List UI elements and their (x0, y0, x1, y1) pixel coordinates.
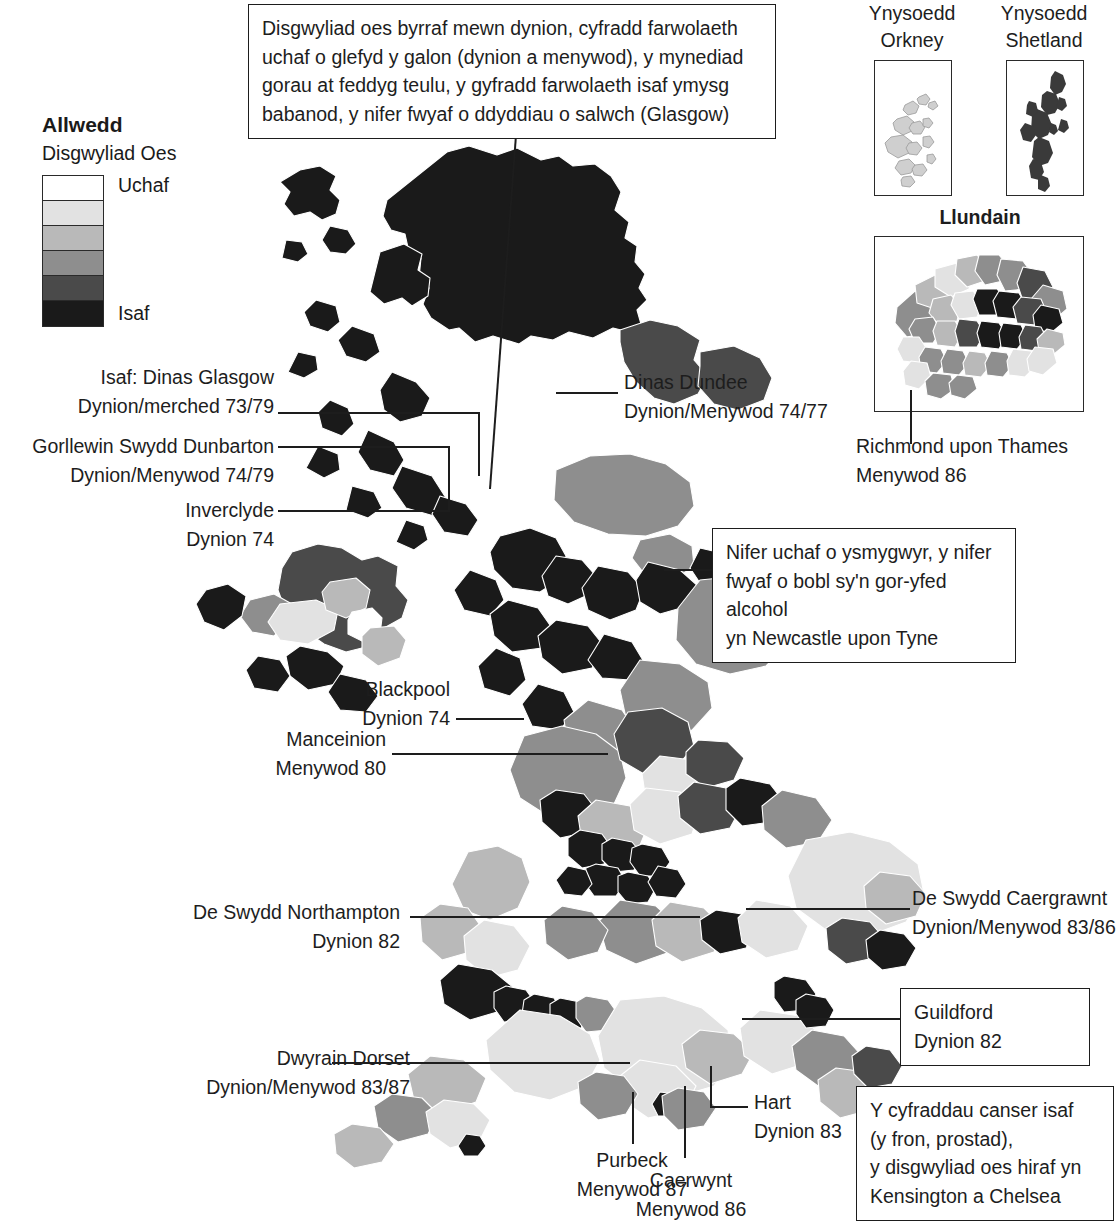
label-glasgow-city-line2: Dynion/merched 73/79 (30, 392, 274, 421)
inset-orkney-line1: Ynysoedd (852, 0, 972, 27)
leader-east-dorset (332, 1062, 630, 1064)
callout-glasgow-line-3: gorau at feddyg teulu, y gyfradd farwola… (262, 71, 762, 100)
leader-glasgow-city-v (478, 412, 480, 476)
inset-title-london: Llundain (880, 204, 1080, 231)
callout-kensington-line-2: (y fron, prostad), (870, 1125, 1100, 1154)
shetland-shape (1007, 61, 1084, 196)
label-west-dunbartonshire: Gorllewin Swydd Dunbarton Dynion/Menywod… (0, 432, 274, 490)
scotland-regions (280, 146, 792, 764)
label-south-cambridgeshire-line2: Dynion/Menywod 83/86 (912, 913, 1116, 942)
label-dundee-line2: Dynion/Menywod 74/77 (624, 397, 828, 426)
leader-inverclyde (278, 510, 450, 512)
leader-purbeck (632, 1092, 634, 1144)
callout-glasgow-line-1: Disgwyliad oes byrraf mewn dynion, cyfra… (262, 14, 762, 43)
legend-swatch-5 (43, 301, 103, 326)
leader-dundee (556, 392, 618, 394)
callout-glasgow-line-2: uchaf o glefyd y galon (dynion a menywod… (262, 43, 762, 72)
leader-hart-v (710, 1066, 712, 1108)
label-east-dorset: Dwyrain Dorset Dynion/Menywod 83/87 (110, 1044, 410, 1102)
legend-swatch-1 (43, 201, 103, 226)
label-inverclyde-line2: Dynion 74 (60, 525, 274, 554)
callout-newcastle-line-2: fwyaf o bobl sy'n gor-yfed alcohol (726, 567, 1002, 624)
callout-kensington: Y cyfraddau canser isaf (y fron, prostad… (856, 1086, 1114, 1221)
label-manchester: Manceinion Menywod 80 (180, 725, 386, 783)
label-south-cambridgeshire: De Swydd Caergrawnt Dynion/Menywod 83/86 (912, 884, 1116, 942)
legend-swatch-4 (43, 276, 103, 301)
label-dundee-line1: Dinas Dundee (624, 368, 828, 397)
inset-shetland-line2: Shetland (984, 27, 1104, 54)
leader-manchester (392, 753, 608, 755)
leader-west-dunbartonshire (278, 446, 450, 448)
orkney-shape (875, 61, 952, 196)
leader-blackpool (456, 718, 524, 720)
label-hart: Hart Dynion 83 (754, 1088, 842, 1146)
callout-kensington-line-1: Y cyfraddau canser isaf (870, 1096, 1100, 1125)
legend-title: Allwedd (42, 112, 176, 138)
label-hart-line2: Dynion 83 (754, 1117, 842, 1146)
inset-title-shetland: Ynysoedd Shetland (984, 0, 1104, 54)
label-inverclyde-line1: Inverclyde (60, 496, 274, 525)
leader-south-northamptonshire (410, 916, 700, 918)
callout-kensington-line-3: y disgwyliad oes hiraf yn (870, 1153, 1100, 1182)
label-west-dunbartonshire-line1: Gorllewin Swydd Dunbarton (0, 432, 274, 461)
inset-shetland-line1: Ynysoedd (984, 0, 1104, 27)
label-west-dunbartonshire-line2: Dynion/Menywod 74/79 (0, 461, 274, 490)
legend-high-label: Uchaf (118, 174, 169, 196)
callout-newcastle-line-1: Nifer uchaf o ysmygwyr, y nifer (726, 538, 1002, 567)
inset-title-orkney: Ynysoedd Orkney (852, 0, 972, 54)
inset-shetland (1006, 60, 1084, 196)
leader-glasgow-city (278, 412, 480, 414)
label-south-northamptonshire-line1: De Swydd Northampton (100, 898, 400, 927)
legend-swatch-0 (43, 176, 103, 201)
legend-swatches (42, 175, 104, 327)
label-richmond-line1: Richmond upon Thames (856, 432, 1068, 461)
leader-richmond (910, 390, 912, 444)
label-south-cambridgeshire-line1: De Swydd Caergrawnt (912, 884, 1116, 913)
label-manchester-line1: Manceinion (180, 725, 386, 754)
legend-low-label: Isaf (118, 302, 149, 324)
callout-guildford: Guildford Dynion 82 (900, 988, 1090, 1066)
label-glasgow-city-line1: Isaf: Dinas Glasgow (30, 363, 274, 392)
label-inverclyde: Inverclyde Dynion 74 (60, 496, 274, 554)
label-glasgow-city: Isaf: Dinas Glasgow Dynion/merched 73/79 (30, 363, 274, 421)
london-boroughs-shape (875, 237, 1084, 412)
leader-guildford (742, 1018, 902, 1020)
leader-south-cambridgeshire (746, 908, 910, 910)
label-richmond-line2: Menywod 86 (856, 461, 1068, 490)
leader-winchester (684, 1086, 686, 1158)
label-winchester-line2: Menywod 86 (596, 1195, 786, 1224)
map-page: .c0{fill:#ffffff}.c1{fill:#e2e2e2}.c2{fi… (0, 0, 1119, 1232)
inset-london (874, 236, 1084, 412)
label-east-dorset-line1: Dwyrain Dorset (110, 1044, 410, 1073)
label-manchester-line2: Menywod 80 (180, 754, 386, 783)
legend: Allwedd Disgwyliad Oes Uchaf Isaf (42, 112, 176, 327)
label-south-northamptonshire-line2: Dynion 82 (100, 927, 400, 956)
callout-glasgow: Disgwyliad oes byrraf mewn dynion, cyfra… (248, 4, 776, 139)
label-winchester-line1: Caerwynt (596, 1166, 786, 1195)
legend-subtitle: Disgwyliad Oes (42, 140, 176, 167)
callout-guildford-line-1: Guildford (914, 998, 1076, 1027)
legend-swatch-2 (43, 226, 103, 251)
leader-inverclyde-v (448, 484, 450, 512)
label-blackpool-line1: Blackpool (250, 675, 450, 704)
label-south-northamptonshire: De Swydd Northampton Dynion 82 (100, 898, 400, 956)
label-dundee: Dinas Dundee Dynion/Menywod 74/77 (624, 368, 828, 426)
label-winchester: Caerwynt Menywod 86 (596, 1166, 786, 1224)
label-east-dorset-line2: Dynion/Menywod 83/87 (110, 1073, 410, 1102)
callout-kensington-line-4: Kensington a Chelsea (870, 1182, 1100, 1211)
callout-newcastle: Nifer uchaf o ysmygwyr, y nifer fwyaf o … (712, 528, 1016, 663)
callout-newcastle-line-3: yn Newcastle upon Tyne (726, 624, 1002, 653)
inset-orkney (874, 60, 952, 196)
leader-hart-h (710, 1106, 748, 1108)
callout-guildford-line-2: Dynion 82 (914, 1027, 1076, 1056)
leader-newcastle (664, 569, 714, 571)
label-hart-line1: Hart (754, 1088, 842, 1117)
label-richmond: Richmond upon Thames Menywod 86 (856, 432, 1068, 490)
callout-glasgow-line-4: babanod, y nifer fwyaf o ddyddiau o salw… (262, 100, 762, 129)
leader-west-dunbartonshire-v (448, 446, 450, 484)
inset-orkney-line2: Orkney (852, 27, 972, 54)
legend-swatch-3 (43, 251, 103, 276)
